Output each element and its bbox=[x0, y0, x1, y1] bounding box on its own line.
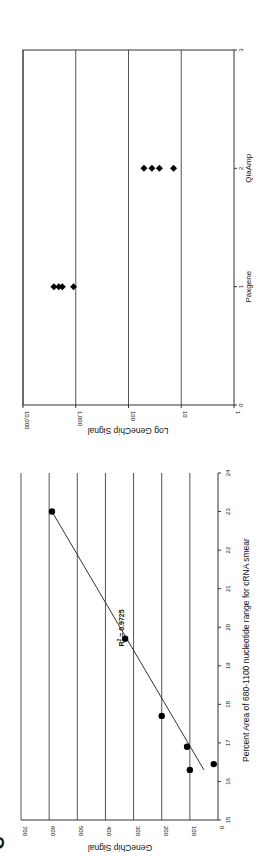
x-tick-label: 3 bbox=[238, 48, 244, 52]
data-point bbox=[49, 508, 55, 514]
x-tick-label: 22 bbox=[225, 546, 231, 553]
bottom-chart-ticks: 0100200300400500600700151617181920212223… bbox=[22, 469, 231, 837]
y-tick-label: 100 bbox=[130, 411, 136, 422]
y-tick-label: 300 bbox=[135, 826, 141, 837]
category-label: QiaAmp bbox=[244, 153, 253, 182]
diamond-marker bbox=[156, 165, 163, 172]
x-tick-label: 15 bbox=[225, 816, 231, 823]
top-chart-gridlines bbox=[23, 50, 181, 405]
bottom-chart-gridlines bbox=[21, 473, 190, 820]
log-signal-chart: 1101001,00010,0000123PaxgeneQiaAmp Log G… bbox=[23, 48, 253, 436]
y-tick-label: 1 bbox=[235, 411, 241, 415]
y-tick-label: 200 bbox=[163, 826, 169, 837]
y-tick-label: 400 bbox=[106, 826, 112, 837]
x-tick-label: 19 bbox=[225, 662, 231, 669]
trendline bbox=[52, 512, 204, 770]
y-tick-label: 10 bbox=[182, 411, 188, 418]
top-chart-y-axis-label: Log GeneChip Signal bbox=[87, 426, 168, 436]
diamond-marker bbox=[59, 283, 66, 290]
x-tick-label: 23 bbox=[225, 508, 231, 515]
bottom-chart-x-axis-label: Percent Area of 680-1100 nucleotide rang… bbox=[241, 538, 251, 762]
diamond-marker bbox=[140, 165, 147, 172]
y-tick-label: 0 bbox=[219, 826, 225, 830]
x-tick-label: 20 bbox=[225, 623, 231, 630]
data-point bbox=[187, 767, 193, 773]
bottom-chart-y-axis-label: GeneChip Signal bbox=[88, 843, 152, 853]
data-point bbox=[211, 761, 217, 767]
x-tick-label: 16 bbox=[225, 777, 231, 784]
panel-letter: C bbox=[0, 837, 8, 850]
y-tick-label: 700 bbox=[22, 826, 28, 837]
x-tick-label: 21 bbox=[225, 585, 231, 592]
linear-signal-chart: 0100200300400500600700151617181920212223… bbox=[21, 469, 251, 853]
top-chart-ticks: 1101001,00010,0000123PaxgeneQiaAmp bbox=[23, 48, 253, 430]
y-tick-label: 1,000 bbox=[77, 411, 83, 427]
top-chart-points bbox=[50, 165, 177, 290]
x-tick-label: 24 bbox=[225, 469, 231, 476]
category-label: Paxgene bbox=[244, 270, 253, 302]
data-point bbox=[184, 744, 190, 750]
diamond-marker bbox=[170, 165, 177, 172]
y-tick-label: 10,000 bbox=[24, 411, 30, 430]
x-tick-label: 17 bbox=[225, 739, 231, 746]
x-tick-label: 18 bbox=[225, 700, 231, 707]
y-tick-label: 500 bbox=[78, 826, 84, 837]
figure-canvas: 1101001,00010,0000123PaxgeneQiaAmp Log G… bbox=[0, 0, 264, 856]
diamond-marker bbox=[148, 165, 155, 172]
x-tick-label: 0 bbox=[238, 403, 244, 407]
y-tick-label: 100 bbox=[191, 826, 197, 837]
y-tick-label: 600 bbox=[50, 826, 56, 837]
data-point bbox=[159, 713, 165, 719]
